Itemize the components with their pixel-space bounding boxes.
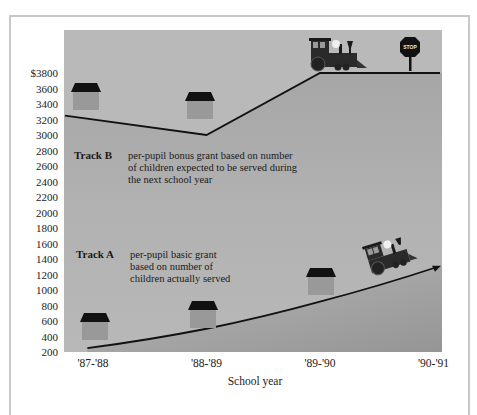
house-icon xyxy=(306,268,336,295)
y-tick-label: 2600 xyxy=(36,160,59,172)
track-a-description-line-1: per-pupil basic grant xyxy=(130,249,217,260)
stop-sign-text: STOP xyxy=(403,44,417,50)
y-tick-label: 1400 xyxy=(36,253,59,265)
x-tick-label: '88-'89 xyxy=(191,357,222,369)
track-a-description-line-3: children actually served xyxy=(130,273,231,284)
y-tick-label: 200 xyxy=(42,346,59,358)
y-tick-label: 3200 xyxy=(36,114,59,126)
x-axis-label: School year xyxy=(228,375,283,388)
house-icon xyxy=(185,92,215,119)
track-b-label: Track B xyxy=(74,149,113,161)
track-a-description-line-2: based on number of xyxy=(130,261,214,272)
house-icon xyxy=(80,313,110,340)
track-b-description-line-3: the next school year xyxy=(128,174,213,185)
house-icon xyxy=(71,83,101,110)
track-b-description-line-2: of children expected to be served during xyxy=(128,162,298,173)
y-tick-label: 2200 xyxy=(36,191,59,203)
y-tick-label: 400 xyxy=(42,331,59,343)
y-tick-label: 3000 xyxy=(36,129,59,141)
y-tick-label: 1000 xyxy=(36,284,59,296)
x-tick-label: '90-'91 xyxy=(418,357,449,369)
track-a-label: Track A xyxy=(76,248,114,260)
y-tick-label: 600 xyxy=(42,315,59,327)
y-tick-label: 3400 xyxy=(36,98,59,110)
y-tick-label: 2400 xyxy=(36,176,59,188)
y-tick-label: 1800 xyxy=(36,222,59,234)
y-tick-label: 3600 xyxy=(36,83,59,95)
track-b-description-line-1: per-pupil bonus grant based on number xyxy=(128,150,293,161)
house-icon xyxy=(188,301,218,328)
y-tick-label: 800 xyxy=(42,300,59,312)
y-tick-label: $3800 xyxy=(31,67,59,79)
y-tick-label: 1600 xyxy=(36,238,59,250)
x-tick-label: '87-'88 xyxy=(78,357,109,369)
y-tick-label: 2800 xyxy=(36,145,59,157)
y-tick-label: 2000 xyxy=(36,207,59,219)
y-tick-label: 1200 xyxy=(36,269,59,281)
x-tick-label: '89-'90 xyxy=(305,357,336,369)
